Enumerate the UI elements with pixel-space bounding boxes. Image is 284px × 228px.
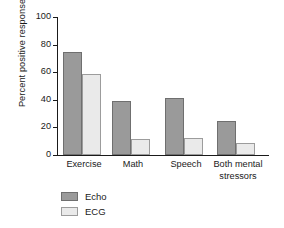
y-tick-mark (53, 72, 57, 73)
y-tick-label: 0 (46, 149, 51, 159)
bar-echo-3 (217, 121, 236, 155)
bar-echo-0 (63, 52, 82, 156)
y-tick-mark (53, 100, 57, 101)
y-tick-mark (53, 127, 57, 128)
bar-echo-2 (165, 98, 184, 155)
bar-ecg-0 (82, 74, 101, 155)
y-tick-label: 60 (41, 66, 51, 76)
x-axis-label-3: Both mentalstressors (204, 159, 272, 182)
x-axis-line (57, 155, 269, 156)
legend-item-echo: Echo (61, 190, 107, 203)
chart-legend: Echo ECG (61, 190, 107, 220)
x-axis-label-line: Both mental (204, 159, 272, 171)
legend-swatch-ecg (61, 207, 78, 216)
bar-echo-1 (112, 101, 131, 155)
bar-ecg-1 (131, 139, 150, 155)
plot-area: 020406080100 ExerciseMathSpeechBoth ment… (57, 17, 269, 155)
bar-ecg-3 (236, 143, 255, 155)
y-tick-label: 100 (36, 11, 51, 21)
y-axis-line (57, 17, 58, 155)
y-tick-label: 20 (41, 121, 51, 131)
legend-label-ecg: ECG (85, 206, 106, 217)
y-tick-mark (53, 17, 57, 18)
y-tick-label: 80 (41, 39, 51, 49)
bar-chart-figure: Percent positive response 020406080100 E… (0, 0, 284, 228)
legend-item-ecg: ECG (61, 205, 107, 218)
legend-label-echo: Echo (85, 191, 107, 202)
y-tick-mark (53, 45, 57, 46)
y-tick-mark (53, 155, 57, 156)
y-axis-title: Percent positive response (17, 0, 27, 123)
y-tick-label: 40 (41, 94, 51, 104)
x-axis-label-line: stressors (204, 171, 272, 183)
legend-swatch-echo (61, 192, 78, 201)
bar-ecg-2 (184, 138, 203, 155)
